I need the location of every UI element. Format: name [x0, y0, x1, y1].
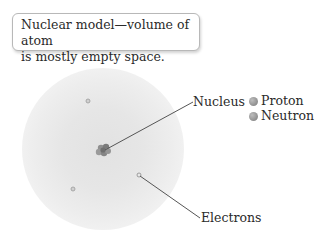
neutron-dot-icon	[249, 112, 258, 121]
legend-proton-label: Proton	[261, 94, 304, 108]
nucleus-leader-line	[105, 102, 193, 150]
nucleus-icon	[96, 144, 111, 156]
legend-neutron-label: Neutron	[261, 109, 314, 123]
electron-icon	[71, 187, 75, 191]
electron-icon	[86, 99, 90, 103]
nucleus-label: Nucleus	[193, 95, 245, 109]
proton-dot-icon	[249, 97, 258, 106]
electrons-leader-line	[140, 176, 200, 218]
electrons-label: Electrons	[201, 211, 262, 225]
